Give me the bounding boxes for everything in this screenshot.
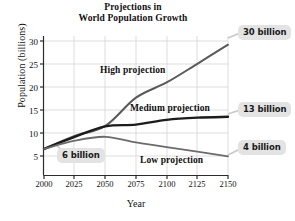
population-growth-chart: Projections in World Population Growth P… bbox=[0, 0, 295, 221]
callout-6-billion: 6 billion bbox=[57, 148, 105, 163]
callout-leaders bbox=[56, 33, 240, 155]
series-label-medium: Medium projection bbox=[130, 103, 210, 113]
callout-4-billion: 4 billion bbox=[238, 140, 286, 155]
series-label-high: High projection bbox=[100, 65, 165, 75]
callout-13-billion: 13 billion bbox=[238, 102, 291, 117]
callout-30-billion: 30 billion bbox=[238, 25, 291, 40]
series-label-low: Low projection bbox=[140, 155, 203, 165]
